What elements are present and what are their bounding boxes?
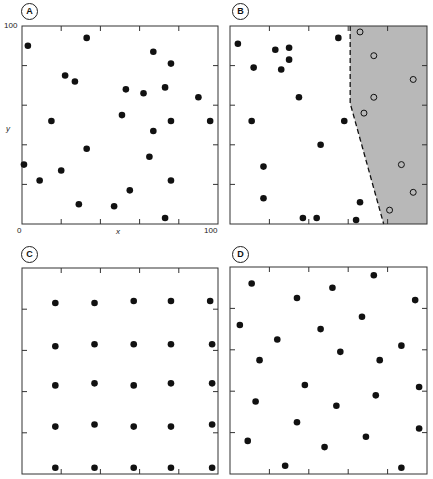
data-point xyxy=(168,423,175,430)
data-point xyxy=(256,357,263,364)
data-point xyxy=(209,465,216,472)
data-point xyxy=(83,35,90,42)
data-point xyxy=(52,343,59,350)
data-point xyxy=(398,342,405,349)
data-point xyxy=(209,421,216,428)
data-point xyxy=(244,438,251,445)
data-point xyxy=(48,118,55,125)
data-point xyxy=(52,423,59,430)
figure-canvas xyxy=(0,0,433,479)
data-point xyxy=(296,94,303,101)
data-point xyxy=(36,177,43,184)
data-point xyxy=(168,341,175,348)
data-point xyxy=(127,187,134,194)
data-point xyxy=(260,195,267,202)
data-point xyxy=(294,295,301,302)
data-point xyxy=(111,203,118,210)
data-point xyxy=(52,465,59,472)
data-point xyxy=(91,465,98,472)
data-point xyxy=(21,161,28,168)
data-point xyxy=(272,46,279,53)
data-point xyxy=(371,272,378,279)
data-point xyxy=(286,56,293,63)
data-point xyxy=(130,341,137,348)
data-point xyxy=(286,44,293,51)
data-point xyxy=(337,349,344,356)
data-point xyxy=(317,326,324,333)
panel-frame-c xyxy=(22,268,218,474)
data-point xyxy=(76,201,83,208)
data-point xyxy=(162,215,169,222)
data-point xyxy=(335,35,342,42)
data-point xyxy=(168,118,175,125)
data-point xyxy=(359,313,366,320)
data-point xyxy=(168,380,175,387)
data-point xyxy=(248,280,255,287)
data-point xyxy=(168,60,175,67)
data-point xyxy=(237,322,244,329)
data-point xyxy=(341,118,348,125)
data-point xyxy=(52,382,59,389)
data-point xyxy=(300,215,307,222)
data-point xyxy=(416,425,423,432)
data-point xyxy=(130,298,137,305)
data-point xyxy=(250,64,257,71)
data-point xyxy=(52,300,59,307)
data-point xyxy=(168,177,175,184)
data-point xyxy=(248,118,255,125)
panel-frame-d xyxy=(230,267,427,474)
data-point xyxy=(83,145,90,152)
data-point xyxy=(294,419,301,426)
data-point xyxy=(130,423,137,430)
data-point xyxy=(195,94,202,101)
data-point xyxy=(313,215,320,222)
data-point xyxy=(274,336,281,343)
data-point xyxy=(146,153,153,160)
data-point xyxy=(357,199,364,206)
data-point xyxy=(119,112,126,119)
data-point xyxy=(209,380,216,387)
data-point xyxy=(317,142,324,149)
data-point xyxy=(207,118,214,125)
data-point xyxy=(282,462,289,469)
data-point xyxy=(207,298,214,305)
data-point xyxy=(260,163,267,170)
data-point xyxy=(91,300,98,307)
data-point xyxy=(91,421,98,428)
data-point xyxy=(168,465,175,472)
data-point xyxy=(329,284,336,291)
panel-frame-a xyxy=(22,26,218,224)
data-point xyxy=(123,86,130,93)
data-point xyxy=(91,380,98,387)
data-point xyxy=(252,398,259,405)
data-point xyxy=(333,402,340,409)
data-point xyxy=(150,48,157,55)
data-point xyxy=(58,167,65,174)
data-point xyxy=(235,41,242,48)
data-point xyxy=(140,90,147,97)
data-point xyxy=(353,217,360,224)
data-point xyxy=(363,433,370,440)
data-point xyxy=(376,357,383,364)
data-point xyxy=(412,297,419,304)
data-point xyxy=(130,382,137,389)
data-point xyxy=(372,392,379,399)
data-point xyxy=(278,66,285,73)
data-point xyxy=(321,444,328,451)
data-point xyxy=(416,384,423,391)
data-point xyxy=(25,43,32,50)
data-point xyxy=(398,464,405,471)
data-point xyxy=(91,341,98,348)
data-point xyxy=(72,78,79,85)
data-point xyxy=(168,298,175,305)
data-point xyxy=(150,128,157,135)
data-point xyxy=(62,72,69,79)
data-point xyxy=(209,341,216,348)
data-point xyxy=(130,465,137,472)
data-point xyxy=(162,84,169,91)
data-point xyxy=(302,382,309,389)
